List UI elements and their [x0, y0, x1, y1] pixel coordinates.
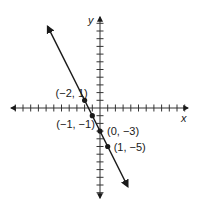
point-label: (0, −3) — [107, 125, 139, 137]
point-label: (1, −5) — [114, 141, 146, 153]
coordinate-plane: x y (−2, 1)(−1, −1)(0, −3)(1, −5) — [0, 0, 202, 210]
y-axis-label: y — [87, 14, 95, 26]
data-point — [105, 144, 110, 149]
plotted-points: (−2, 1)(−1, −1)(0, −3)(1, −5) — [56, 87, 146, 152]
point-label: (−1, −1) — [56, 118, 95, 130]
x-axis-label: x — [180, 112, 187, 124]
point-label: (−2, 1) — [56, 87, 88, 99]
data-point — [97, 129, 102, 134]
